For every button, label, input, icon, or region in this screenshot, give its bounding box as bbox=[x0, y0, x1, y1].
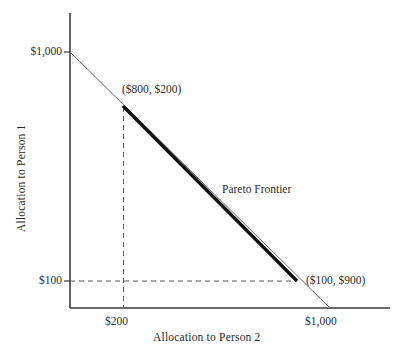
annotation-frontier-label: Pareto Frontier bbox=[222, 184, 291, 196]
x-tick-label-200: $200 bbox=[105, 316, 128, 328]
annotation-point-left: ($800, $200) bbox=[122, 84, 181, 96]
x-tick-label-1000-text: $1,000 bbox=[305, 315, 337, 327]
annotation-point-right: ($100, $900) bbox=[306, 275, 365, 287]
budget-line bbox=[70, 52, 330, 308]
annotation-point-right-text: ($100, $900) bbox=[306, 274, 365, 286]
x-tick-label-200-text: $200 bbox=[105, 315, 128, 327]
annotation-point-left-text: ($800, $200) bbox=[122, 83, 181, 95]
y-tick-label-1000-text: $1,000 bbox=[30, 45, 62, 57]
chart-canvas bbox=[0, 0, 414, 354]
pareto-frontier-chart: Allocation to Person 1 $1,000 $100 $200 … bbox=[0, 0, 414, 354]
y-axis-title-text: Allocation to Person 1 bbox=[15, 124, 27, 232]
y-axis-title: Allocation to Person 1 bbox=[16, 124, 28, 232]
y-tick-label-100-text: $100 bbox=[39, 274, 62, 286]
y-tick-label-1000: $1,000 bbox=[28, 46, 62, 58]
y-tick-label-100: $100 bbox=[28, 275, 62, 287]
x-tick-label-1000: $1,000 bbox=[305, 316, 337, 328]
x-axis-title: Allocation to Person 2 bbox=[153, 332, 261, 344]
annotation-frontier-label-text: Pareto Frontier bbox=[222, 183, 291, 195]
x-axis-title-text: Allocation to Person 2 bbox=[153, 331, 261, 343]
